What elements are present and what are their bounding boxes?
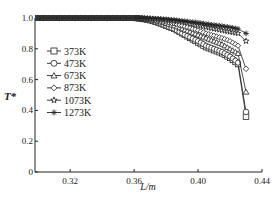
legend-label: 1273K bbox=[64, 107, 92, 118]
asterisk-marker-icon bbox=[126, 15, 131, 20]
asterisk-marker-icon bbox=[94, 15, 99, 20]
asterisk-marker-icon bbox=[116, 15, 121, 20]
legend-label: 473K bbox=[64, 58, 87, 69]
legend-item-873K: 873K bbox=[47, 82, 87, 93]
legend-label: 1073K bbox=[64, 95, 92, 106]
x-axis-label: L/m bbox=[139, 181, 156, 192]
asterisk-marker-icon bbox=[68, 15, 73, 20]
asterisk-marker-icon bbox=[100, 15, 105, 20]
y-tick-label: 0.6 bbox=[22, 75, 34, 85]
circle-marker-icon bbox=[51, 60, 57, 66]
asterisk-marker-icon bbox=[78, 15, 83, 20]
y-tick-label: 0.4 bbox=[22, 105, 34, 115]
asterisk-marker-icon bbox=[41, 15, 46, 20]
legend-item-1273K: 1273K bbox=[47, 107, 92, 118]
x-tick-label: 0.40 bbox=[190, 176, 206, 186]
legend-item-373K: 373K bbox=[47, 46, 87, 57]
asterisk-marker-icon bbox=[105, 15, 110, 20]
legend-item-473K: 473K bbox=[47, 58, 87, 69]
asterisk-marker-icon bbox=[36, 15, 41, 20]
y-tick-label: 0 bbox=[29, 167, 34, 177]
legend-item-673K: 673K bbox=[47, 70, 87, 81]
legend: 373K473K673K873K1073K1273K bbox=[47, 46, 92, 119]
asterisk-marker-icon bbox=[121, 15, 126, 20]
legend-item-1073K: 1073K bbox=[47, 95, 92, 106]
asterisk-marker-icon bbox=[110, 15, 115, 20]
asterisk-marker-icon bbox=[52, 15, 57, 20]
asterisk-marker-icon bbox=[235, 26, 240, 31]
star-marker-icon bbox=[51, 97, 57, 103]
asterisk-marker-icon bbox=[243, 31, 249, 37]
temperature-profile-chart: 00.20.40.60.81.00.320.360.400.44 373K473… bbox=[0, 0, 276, 207]
x-tick-label: 0.44 bbox=[254, 176, 270, 186]
triangle-marker-icon bbox=[243, 89, 249, 94]
diamond-marker-icon bbox=[243, 66, 249, 72]
legend-label: 873K bbox=[64, 82, 87, 93]
asterisk-marker-icon bbox=[51, 110, 57, 116]
y-tick-label: 0.2 bbox=[22, 136, 33, 146]
axes: 00.20.40.60.81.00.320.360.400.44 bbox=[22, 13, 271, 186]
square-marker-icon bbox=[51, 48, 57, 54]
asterisk-marker-icon bbox=[57, 15, 62, 20]
asterisk-marker-icon bbox=[73, 15, 78, 20]
legend-label: 673K bbox=[64, 70, 87, 81]
asterisk-marker-icon bbox=[89, 15, 94, 20]
diamond-marker-icon bbox=[51, 85, 57, 91]
chart-container: 00.20.40.60.81.00.320.360.400.44 373K473… bbox=[0, 0, 276, 207]
circle-marker-icon bbox=[243, 109, 249, 115]
x-tick-label: 0.32 bbox=[62, 176, 78, 186]
asterisk-marker-icon bbox=[84, 15, 89, 20]
asterisk-marker-icon bbox=[46, 15, 51, 20]
y-axis-label: T* bbox=[4, 90, 17, 102]
y-tick-label: 0.8 bbox=[22, 44, 34, 54]
asterisk-marker-icon bbox=[62, 15, 67, 20]
y-tick-label: 1.0 bbox=[22, 13, 34, 23]
legend-label: 373K bbox=[64, 46, 87, 57]
